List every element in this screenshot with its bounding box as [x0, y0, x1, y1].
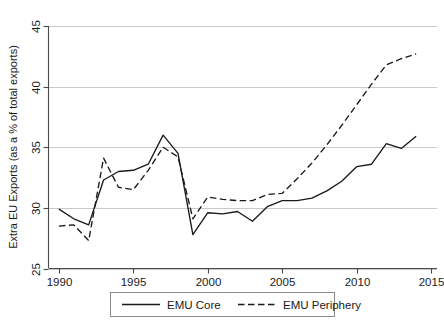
x-tick-label-1990: 1990 [47, 276, 73, 288]
x-tick-label-2005: 2005 [270, 276, 296, 288]
y-tick-label-35: 35 [30, 141, 42, 154]
line-chart: 2530354045 199019952000200520102015 Extr… [0, 0, 444, 326]
legend-label-emu-periphery: EMU Periphery [283, 299, 361, 311]
legend-label-emu-core: EMU Core [167, 299, 221, 311]
y-tick-label-45: 45 [30, 20, 42, 33]
chart-legend: EMU Core EMU Periphery [111, 293, 362, 317]
y-axis-title: Extra EU Exports (as a % of total export… [7, 45, 19, 249]
y-tick-label-40: 40 [30, 81, 42, 94]
chart-figure: 2530354045 199019952000200520102015 Extr… [0, 0, 444, 326]
y-tick-label-25: 25 [30, 263, 42, 276]
x-tick-label-1995: 1995 [121, 276, 147, 288]
y-tick-label-30: 30 [30, 202, 42, 215]
x-tick-label-2015: 2015 [419, 276, 444, 288]
x-tick-label-2000: 2000 [196, 276, 222, 288]
x-tick-label-2010: 2010 [345, 276, 371, 288]
